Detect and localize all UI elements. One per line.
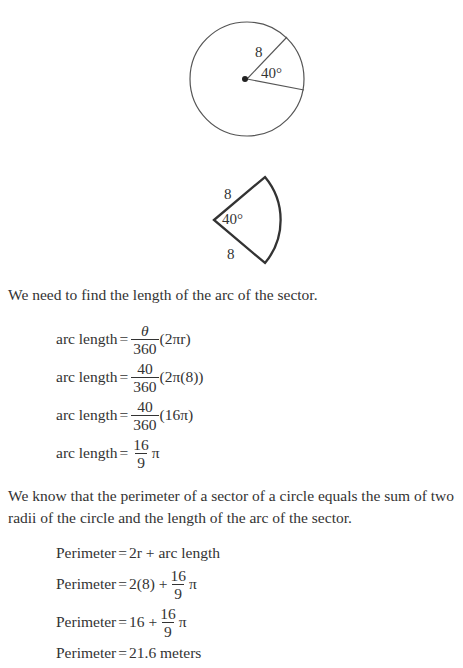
sector-top-radius-label: 8 xyxy=(224,186,232,202)
fraction: 40 360 xyxy=(131,360,158,395)
perimeter-equation-3: Perimeter = 16 + 16 9 π xyxy=(56,603,220,641)
perimeter-equation-2: Perimeter = 2(8) + 16 9 π xyxy=(56,565,220,603)
center-point xyxy=(242,76,248,82)
perimeter-equation-4: Perimeter = 21.6 meters xyxy=(56,641,220,665)
arc-equation-3: arc length = 40 360 (16π) xyxy=(56,396,204,434)
arc-equation-1: arc length = θ 360 (2πr) xyxy=(56,320,204,358)
perimeter-equations: Perimeter = 2r + arc length Perimeter = … xyxy=(56,541,220,665)
paragraph-perimeter-definition: We know that the perimeter of a sector o… xyxy=(8,485,460,529)
paragraph-find-arc: We need to find the length of the arc of… xyxy=(8,284,460,306)
circle-angle-label: 40° xyxy=(261,65,282,81)
fraction: 16 9 xyxy=(168,567,188,602)
sector-bottom-radius-label: 8 xyxy=(227,246,235,262)
sector-angle-label: 40° xyxy=(222,211,243,227)
arc-length-equations: arc length = θ 360 (2πr) arc length = 40… xyxy=(56,320,204,472)
figures: 8 40° 8 40° 8 xyxy=(0,0,463,280)
arc-equation-2: arc length = 40 360 (2π(8)) xyxy=(56,358,204,396)
fraction: 16 9 xyxy=(131,436,151,471)
perimeter-equation-1: Perimeter = 2r + arc length xyxy=(56,541,220,565)
fraction: 16 9 xyxy=(158,605,178,640)
circle-figure: 8 40° xyxy=(190,22,304,136)
arc-equation-4: arc length = 16 9 π xyxy=(56,434,204,472)
circle-radius-label: 8 xyxy=(255,44,263,60)
fraction: θ 360 xyxy=(131,322,158,357)
sector-figure: 8 40° 8 xyxy=(214,177,281,263)
fraction: 40 360 xyxy=(131,398,158,433)
